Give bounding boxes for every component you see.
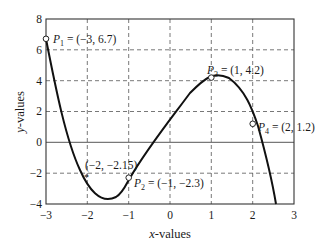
svg-text:0: 0 — [36, 136, 42, 148]
svg-text:−3: −3 — [40, 209, 52, 221]
point-p2-marker — [126, 175, 132, 181]
svg-text:2: 2 — [36, 105, 42, 117]
svg-text:2: 2 — [250, 209, 256, 221]
point-p3-label: P3 = (1, 4.2) — [206, 64, 264, 79]
svg-text:3: 3 — [291, 209, 297, 221]
svg-text:8: 8 — [36, 13, 42, 25]
x-axis-label: x-values — [148, 227, 191, 241]
point-p2-label: P2 = (−1, −2.3) — [133, 177, 204, 192]
star-marker-icon: * — [84, 172, 89, 183]
svg-text:4: 4 — [36, 75, 42, 87]
svg-text:−2: −2 — [30, 167, 42, 179]
star-point-label: (−2, −2.15) — [85, 159, 137, 172]
chart: * P1 = (−3, 6.7) P2 = (−1, −2.3) P3 = (1… — [0, 0, 332, 246]
y-axis-label: y-values — [13, 91, 27, 135]
point-p4-label: P4 = (2, 1.2) — [257, 121, 315, 136]
point-p4-marker — [250, 121, 256, 127]
x-tick-labels: −3 −2 −1 0 1 2 3 — [40, 209, 297, 221]
point-p1-label: P1 = (−3, 6.7) — [52, 33, 116, 48]
y-tick-labels: 8 6 4 2 0 −2 −4 — [30, 13, 43, 210]
svg-text:1: 1 — [208, 209, 214, 221]
svg-text:−2: −2 — [81, 209, 93, 221]
svg-text:6: 6 — [36, 44, 42, 56]
point-p1-marker — [43, 36, 49, 42]
svg-text:0: 0 — [167, 209, 173, 221]
svg-text:−1: −1 — [123, 209, 135, 221]
